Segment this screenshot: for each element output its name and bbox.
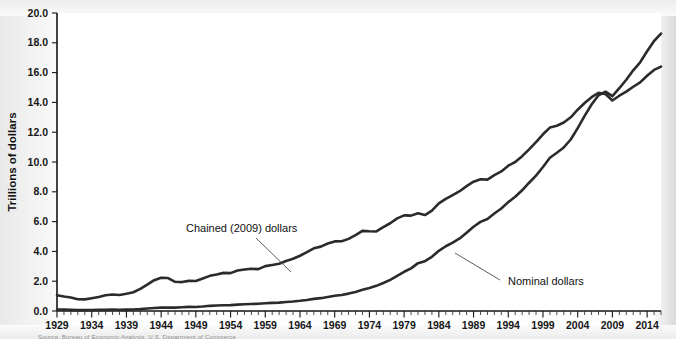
y-axis: 0.02.04.06.08.010.012.014.016.018.020.0 — [28, 7, 57, 317]
x-tick-label: 2014 — [635, 319, 659, 331]
y-tick-label: 0.0 — [33, 305, 48, 317]
x-tick-label: 1994 — [497, 319, 521, 331]
x-tick-label: 1929 — [45, 319, 69, 331]
y-tick-label: 2.0 — [33, 275, 48, 287]
x-tick-label: 1944 — [149, 319, 173, 331]
y-tick-label: 18.0 — [28, 36, 49, 48]
y-tick-label: 4.0 — [33, 245, 48, 257]
y-tick-label: 12.0 — [28, 126, 49, 138]
x-tick-label: 1959 — [254, 319, 278, 331]
x-tick-label: 1949 — [184, 319, 208, 331]
chained-dollars-annotation: Chained (2009) dollars — [186, 222, 298, 234]
y-tick-label: 10.0 — [28, 156, 49, 168]
x-tick-label: 1974 — [358, 319, 382, 331]
x-tick-label: 1969 — [323, 319, 347, 331]
x-tick-label: 1934 — [80, 319, 104, 331]
x-tick-label: 1989 — [462, 319, 486, 331]
y-tick-label: 6.0 — [33, 215, 48, 227]
y-tick-label: 20.0 — [28, 7, 49, 19]
plot-background — [57, 13, 661, 311]
x-tick-label: 1964 — [288, 319, 312, 331]
x-tick-label: 1939 — [115, 319, 139, 331]
gdp-line-chart: 0.02.04.06.08.010.012.014.016.018.020.0 … — [0, 0, 676, 339]
y-axis-title: Trillions of dollars — [6, 112, 18, 211]
x-tick-label: 2004 — [566, 319, 590, 331]
y-tick-label: 8.0 — [33, 185, 48, 197]
x-tick-label: 1984 — [427, 319, 451, 331]
source-note: Source: Bureau of Economic Analysis, U.S… — [38, 333, 236, 339]
y-tick-label: 14.0 — [28, 96, 49, 108]
x-tick-label: 1954 — [219, 319, 243, 331]
x-axis: 1929193419391944194919541959196419691974… — [45, 311, 661, 331]
nominal-dollars-annotation: Nominal dollars — [508, 275, 584, 287]
x-tick-label: 1999 — [531, 319, 555, 331]
chart-page: 0.02.04.06.08.010.012.014.016.018.020.0 … — [0, 0, 676, 339]
x-tick-label: 2009 — [601, 319, 625, 331]
x-tick-label: 1979 — [392, 319, 416, 331]
y-tick-label: 16.0 — [28, 66, 49, 78]
